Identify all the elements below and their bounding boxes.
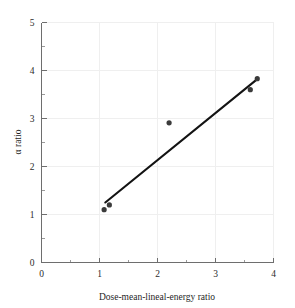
- data-point: [107, 202, 112, 207]
- chart-figure: 01234 012345 Dose-mean-lineal-energy rat…: [0, 0, 295, 308]
- y-axis-title: α ratio: [13, 129, 23, 154]
- y-tick-label: 5: [30, 18, 35, 28]
- x-tick-label: 0: [39, 269, 44, 279]
- x-tick-label: 3: [213, 269, 218, 279]
- x-tick-label: 4: [271, 269, 276, 279]
- data-point: [248, 87, 253, 92]
- x-tick-label: 1: [97, 269, 102, 279]
- data-point: [167, 120, 172, 125]
- y-tick-label: 3: [30, 114, 35, 124]
- y-tick-label: 1: [30, 210, 35, 220]
- x-axis-title: Dose-mean-lineal-energy ratio: [99, 292, 215, 302]
- data-point: [102, 207, 107, 212]
- scatter-plot: 01234 012345 Dose-mean-lineal-energy rat…: [0, 0, 295, 308]
- y-tick-label: 0: [30, 258, 35, 268]
- y-tick-label: 2: [30, 162, 35, 172]
- data-point: [255, 76, 260, 81]
- y-tick-label: 4: [30, 66, 35, 76]
- x-tick-label: 2: [155, 269, 160, 279]
